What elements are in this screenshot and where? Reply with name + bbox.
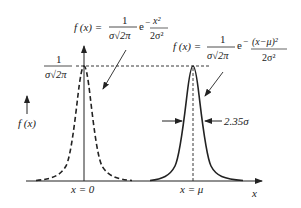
formula-right: f (x) = 1 σ√2π e − (x−μ)² 2σ²	[173, 33, 287, 63]
peak-value-denominator: σ√2π	[45, 69, 67, 80]
svg-text:(x−μ)²: (x−μ)²	[252, 36, 279, 48]
svg-text:−: −	[145, 17, 150, 27]
center-label-left: x = 0	[70, 183, 95, 195]
svg-text:f (x) =: f (x) =	[74, 21, 102, 34]
svg-text:2σ²: 2σ²	[262, 52, 275, 63]
formula-right-pointer	[205, 72, 223, 96]
svg-text:2σ²: 2σ²	[150, 30, 163, 41]
peak-value-numerator: 1	[56, 53, 62, 65]
svg-text:e: e	[139, 20, 144, 32]
fwhm-label: 2.35σ	[224, 115, 249, 127]
svg-text:e: e	[237, 39, 242, 51]
svg-text:f (x) =: f (x) =	[173, 40, 201, 53]
gaussian-diagram: f (x) x x = 0 x = μ 2.35σ 1 σ√2π f (x) =…	[0, 0, 301, 208]
svg-text:1: 1	[220, 33, 226, 45]
y-axis-label: f (x)	[18, 117, 36, 130]
formula-left: f (x) = 1 σ√2π e − x² 2σ²	[74, 14, 168, 41]
svg-text:x²: x²	[152, 15, 161, 26]
formula-left-pointer	[103, 50, 126, 89]
x-axis-label: x	[251, 187, 257, 199]
svg-text:σ√2π: σ√2π	[109, 30, 131, 41]
svg-text:σ√2π: σ√2π	[207, 50, 229, 61]
svg-text:−: −	[243, 36, 248, 46]
svg-text:1: 1	[122, 14, 128, 26]
center-label-right: x = μ	[179, 183, 204, 195]
